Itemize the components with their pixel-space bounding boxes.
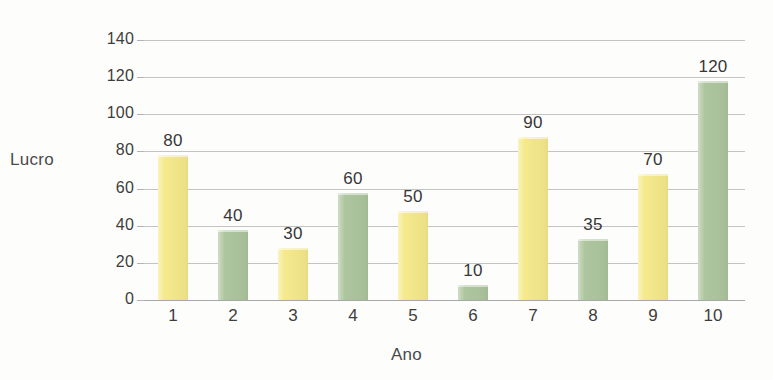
x-tick-label-1: 1: [143, 306, 203, 326]
y-tick-label-0: 0: [86, 290, 134, 308]
x-tick-label-8: 8: [563, 306, 623, 326]
x-tick-label-9: 9: [623, 306, 683, 326]
y-tick-label-40: 40: [86, 216, 134, 234]
x-axis-title: Ano: [0, 345, 773, 365]
y-tick-label-20: 20: [86, 253, 134, 271]
x-tick-label-6: 6: [443, 306, 503, 326]
x-tick-label-2: 2: [203, 306, 263, 326]
y-tick-label-100: 100: [86, 104, 134, 122]
x-tick-label-3: 3: [263, 306, 323, 326]
x-tick-label-4: 4: [323, 306, 383, 326]
y-tick-label-60: 60: [86, 179, 134, 197]
y-axis-tick-labels: 020406080100120140: [86, 40, 134, 300]
y-axis-title: Lucro: [10, 150, 54, 170]
y-tick-label-140: 140: [86, 30, 134, 48]
x-axis-tick-labels: 12345678910: [143, 0, 745, 380]
y-tick-label-80: 80: [86, 141, 134, 159]
x-tick-label-7: 7: [503, 306, 563, 326]
x-axis-title-text: Ano: [391, 345, 422, 364]
y-tick-label-120: 120: [86, 67, 134, 85]
bar-chart: Lucro 020406080100120140 804030605010903…: [0, 0, 773, 380]
x-tick-label-10: 10: [683, 306, 743, 326]
x-tick-label-5: 5: [383, 306, 443, 326]
